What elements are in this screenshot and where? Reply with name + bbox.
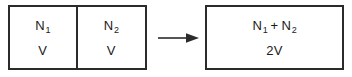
left-container: N1 V N2 V — [8, 5, 147, 70]
compartment-1-particle-label: N1 — [35, 19, 50, 32]
merged-volume-label: 2V — [266, 44, 283, 57]
compartment-2-particle-label: N2 — [104, 19, 119, 32]
compartment-2-particle-subscript: 2 — [114, 25, 119, 35]
compartment-1: N1 V — [10, 7, 78, 68]
compartment-2-volume-label: V — [107, 44, 116, 57]
merged-operator: + — [271, 18, 279, 33]
compartment-1-particle-subscript: 1 — [45, 25, 50, 35]
merged-particle-symbol-1: N — [253, 18, 263, 33]
merged-system-box: N1+N2 2V — [205, 5, 344, 70]
compartment-1-volume-label: V — [38, 44, 47, 57]
merged-particle-label: N1+N2 — [253, 19, 297, 32]
physics-diagram: N1 V N2 V N1+N2 2V — [0, 0, 352, 77]
compartment-2: N2 V — [78, 7, 146, 68]
right-arrow-icon — [158, 31, 199, 45]
merged-particle-subscript-2: 2 — [292, 25, 297, 35]
compartment-2-particle-symbol: N — [104, 18, 114, 33]
compartment-1-particle-symbol: N — [35, 18, 45, 33]
merged-particle-symbol-2: N — [281, 18, 291, 33]
merged-particle-subscript-1: 1 — [263, 25, 268, 35]
